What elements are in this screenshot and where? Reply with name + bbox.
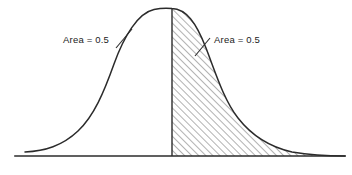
- right-area-label: Area = 0.5: [214, 34, 260, 45]
- left-area-label: Area = 0.5: [63, 34, 109, 45]
- distribution-chart-svg: Area = 0.5 Area = 0.5: [0, 0, 352, 175]
- shaded-right-region: [168, 0, 350, 160]
- hatch-fill: [168, 0, 350, 160]
- left-area-leader-line: [116, 29, 132, 48]
- normal-curve-figure: Area = 0.5 Area = 0.5: [0, 0, 352, 175]
